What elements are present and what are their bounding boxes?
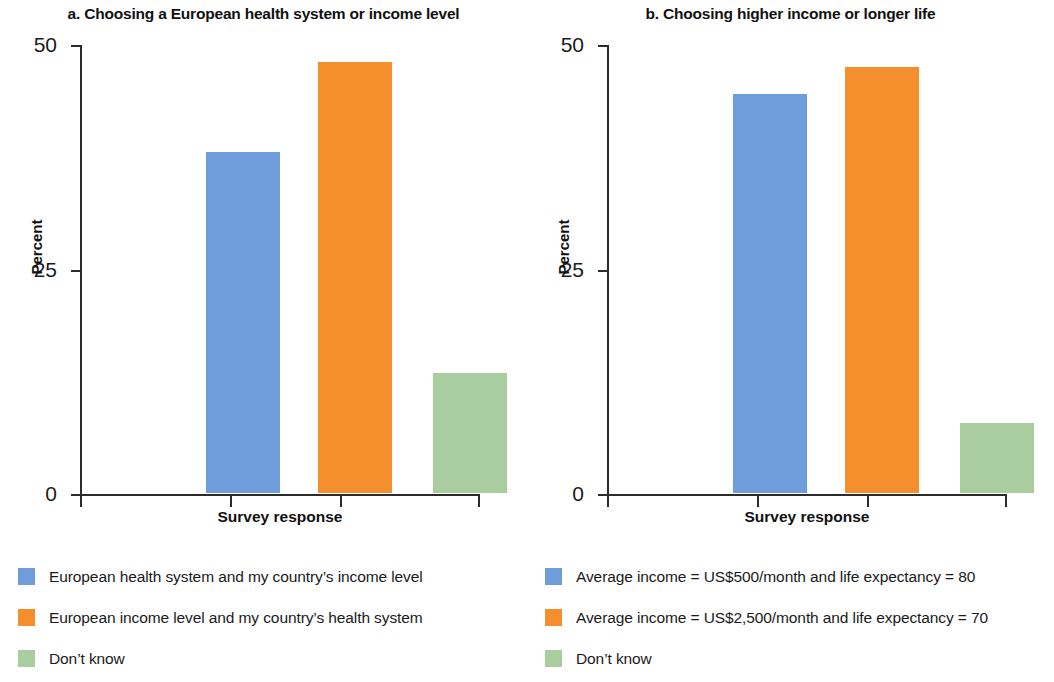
legend-swatch-icon	[18, 609, 35, 626]
panel-a-bar	[318, 62, 392, 493]
panel-a-title: a. Choosing a European health system or …	[0, 5, 527, 23]
panel-a-y-axis	[80, 45, 82, 495]
legend-item-label: Average income = US$500/month and life e…	[576, 568, 975, 586]
panel-a-y-tick: 0	[71, 494, 80, 496]
panel-b-x-tick	[1005, 496, 1007, 507]
panel-b-y-axis-title: Percent	[555, 219, 572, 274]
panel-b-x-axis-title: Survey response	[607, 508, 1007, 526]
legend-swatch-icon	[545, 650, 562, 667]
panel-a-plot-area: 02550	[80, 45, 480, 494]
figure: a. Choosing a European health system or …	[0, 0, 1054, 682]
panel-a-y-tick-label: 0	[45, 482, 57, 506]
panel-b-y-axis	[607, 45, 609, 495]
panel-a-x-axis	[80, 494, 480, 496]
panel-b-legend: Average income = US$500/month and life e…	[545, 556, 1045, 679]
panel-a-x-axis-title: Survey response	[80, 508, 480, 526]
panel-b-bar	[960, 423, 1034, 493]
panel-b-y-tick: 50	[598, 45, 607, 47]
panel-b-x-tick	[867, 496, 869, 507]
legend-swatch-icon	[18, 650, 35, 667]
panel-a-x-tick	[80, 496, 82, 507]
chart-panel-b: b. Choosing higher income or longer life…	[527, 0, 1054, 682]
panel-a-x-tick	[230, 496, 232, 507]
panel-a-x-tick	[340, 496, 342, 507]
panel-a-legend: European health system and my country’s …	[18, 556, 518, 679]
panel-a-y-tick: 25	[71, 270, 80, 272]
legend-item: Don’t know	[545, 638, 1045, 679]
panel-b-bar	[845, 67, 919, 493]
panel-b-x-tick	[757, 496, 759, 507]
legend-item-label: Don’t know	[576, 650, 652, 668]
panel-a-bar	[433, 373, 507, 493]
legend-item: European health system and my country’s …	[18, 556, 518, 597]
legend-item: Average income = US$500/month and life e…	[545, 556, 1045, 597]
panel-b-bar	[733, 94, 807, 493]
legend-item-label: Average income = US$2,500/month and life…	[576, 609, 988, 627]
panel-a-y-tick-label: 50	[34, 33, 57, 57]
panel-b-y-tick: 25	[598, 270, 607, 272]
panel-b-x-tick	[607, 496, 609, 507]
panel-a-bar	[206, 152, 280, 493]
panel-b-x-axis	[607, 494, 1007, 496]
panel-b-y-tick-label: 0	[572, 482, 584, 506]
panel-a-x-tick	[478, 496, 480, 507]
legend-item-label: European health system and my country’s …	[49, 568, 423, 586]
panel-a-y-axis-title: Percent	[28, 219, 45, 274]
legend-item-label: Don’t know	[49, 650, 125, 668]
legend-item: Don’t know	[18, 638, 518, 679]
legend-swatch-icon	[545, 568, 562, 585]
panel-b-y-tick: 0	[598, 494, 607, 496]
panel-b-title: b. Choosing higher income or longer life	[527, 5, 1054, 23]
legend-swatch-icon	[545, 609, 562, 626]
legend-item: Average income = US$2,500/month and life…	[545, 597, 1045, 638]
legend-item-label: European income level and my country’s h…	[49, 609, 423, 627]
panel-b-y-tick-label: 50	[561, 33, 584, 57]
panel-a-y-tick: 50	[71, 45, 80, 47]
chart-panel-a: a. Choosing a European health system or …	[0, 0, 527, 682]
legend-item: European income level and my country’s h…	[18, 597, 518, 638]
panel-b-plot-area: 02550	[607, 45, 1007, 494]
legend-swatch-icon	[18, 568, 35, 585]
